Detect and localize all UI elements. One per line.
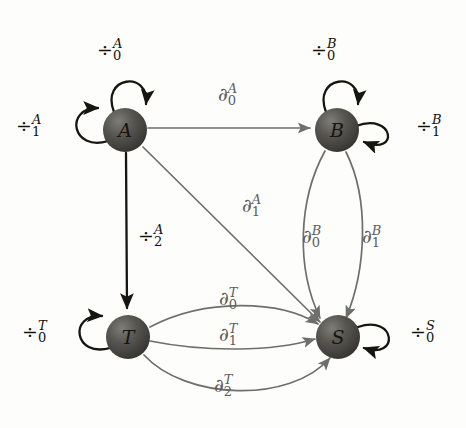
partial-icon: ∂ [218, 83, 228, 105]
self-loop-b-0 [324, 81, 359, 112]
edge-b-s-right [346, 152, 363, 318]
label-edge-b-s-left-sub: 0 [312, 236, 320, 249]
label-edge-t-s-top: ∂T0 [219, 289, 241, 308]
label-edge-a-t: ÷A2 [138, 226, 166, 245]
label-edge-t-s-middle-sub: 1 [229, 334, 237, 347]
label-loop-s-0: ÷S0 [410, 322, 438, 341]
label-loop-a-1-sub: 1 [32, 125, 40, 138]
label-loop-b-0: ÷B0 [311, 40, 339, 59]
divide-icon: ÷ [410, 322, 426, 341]
label-loop-a-0-sub: 0 [113, 49, 121, 62]
partial-icon: ∂ [219, 287, 229, 309]
label-edge-a-s-sub: 1 [252, 205, 260, 218]
label-edge-a-s: ∂A1 [242, 196, 264, 215]
label-edge-b-s-right: ∂B1 [362, 227, 384, 246]
label-edge-t-s-bottom-sub: 2 [224, 385, 232, 398]
label-edge-t-s-bottom: ∂T2 [214, 376, 236, 395]
label-edge-t-s-middle: ∂T1 [219, 325, 241, 344]
label-loop-a-0: ÷A0 [97, 40, 125, 59]
partial-icon: ∂ [362, 225, 372, 247]
partial-icon: ∂ [214, 374, 224, 396]
node-A[interactable]: A [103, 108, 147, 152]
label-edge-b-s-left: ∂B0 [302, 227, 324, 246]
label-edge-a-b-sub: 0 [228, 94, 236, 107]
self-loop-b-1 [356, 123, 388, 145]
edge-a-t [126, 153, 127, 308]
state-diagram-figure: A B T S ÷A0 ÷A1 ∂A0 ÷B0 ÷B1 ∂A1 ÷A2 [0, 0, 466, 428]
node-S[interactable]: S [316, 315, 360, 359]
node-T-label: T [122, 326, 136, 348]
node-T[interactable]: T [106, 315, 150, 359]
divide-icon: ÷ [311, 40, 327, 59]
label-loop-b-1-sub: 1 [432, 125, 440, 138]
edge-t-s-bottom [144, 355, 330, 391]
partial-icon: ∂ [242, 194, 252, 216]
label-edge-a-b: ∂A0 [218, 85, 240, 104]
diagram-svg: A B T S [0, 0, 466, 428]
partial-icon: ∂ [219, 323, 229, 345]
node-S-label: S [331, 326, 344, 348]
label-edge-a-t-sub: 2 [154, 235, 162, 248]
node-A-label: A [116, 119, 132, 141]
self-loop-a-0 [112, 81, 147, 112]
self-loop-t-0 [79, 316, 110, 350]
divide-icon: ÷ [97, 40, 113, 59]
partial-icon: ∂ [302, 225, 312, 247]
self-loop-s-0 [358, 325, 389, 350]
label-edge-b-s-right-sub: 1 [372, 236, 380, 249]
node-B-label: B [329, 119, 344, 141]
label-loop-a-1: ÷A1 [16, 116, 44, 135]
label-loop-b-0-sub: 0 [327, 49, 335, 62]
label-loop-s-0-sub: 0 [426, 331, 434, 344]
node-B[interactable]: B [315, 108, 359, 152]
divide-icon: ÷ [138, 226, 154, 245]
label-edge-t-s-top-sub: 0 [229, 298, 237, 311]
label-loop-t-0-sub: 0 [38, 331, 46, 344]
self-loop-a-1 [76, 108, 108, 143]
divide-icon: ÷ [16, 116, 32, 135]
label-loop-b-1: ÷B1 [416, 116, 444, 135]
divide-icon: ÷ [22, 322, 38, 341]
divide-icon: ÷ [416, 116, 432, 135]
label-loop-t-0: ÷T0 [22, 322, 50, 341]
